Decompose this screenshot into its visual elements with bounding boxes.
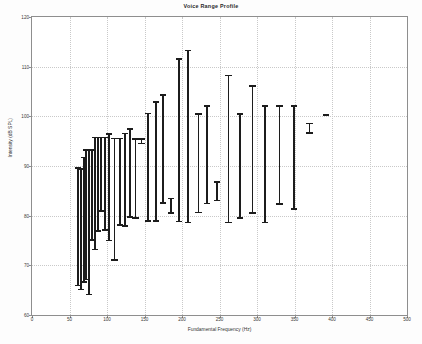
- range-bar-cap-min: [195, 212, 201, 214]
- range-bar: [94, 137, 96, 251]
- range-bar-cap-min: [185, 222, 191, 224]
- range-bar-cap-max: [291, 105, 297, 107]
- x-axis-tick-label: 300: [253, 317, 261, 322]
- range-bar: [91, 149, 93, 241]
- range-bar: [129, 128, 131, 217]
- range-bar-cap-min: [138, 143, 144, 145]
- range-bar-cap-max: [237, 113, 243, 115]
- range-bar-cap-min: [168, 212, 174, 214]
- range-bar-cap-min: [78, 289, 84, 291]
- range-bar: [206, 105, 208, 204]
- x-axis-tick-label: 400: [328, 317, 336, 322]
- screenshot-root: Voice Range Profile 60708090100110120050…: [0, 0, 422, 344]
- range-bar: [108, 133, 110, 241]
- y-axis-tick-label: 120: [21, 15, 29, 20]
- range-bar-cap-max: [160, 94, 166, 96]
- range-bar: [178, 58, 180, 222]
- range-bar: [100, 137, 102, 212]
- range-bar-cap-min: [204, 203, 210, 205]
- x-axis-tick-label: 500: [403, 317, 411, 322]
- range-bar: [80, 168, 82, 290]
- x-axis-tick-label: 250: [216, 317, 224, 322]
- x-axis-tick-label: 450: [366, 317, 374, 322]
- range-bar-cap-min: [225, 222, 231, 224]
- range-bar: [88, 149, 90, 295]
- y-axis-tick-label: 80: [24, 213, 29, 218]
- y-axis-tick: [29, 17, 32, 18]
- range-bar: [77, 167, 79, 286]
- range-bar-cap-max: [122, 133, 128, 135]
- range-bar: [124, 133, 126, 227]
- range-bar-cap-min: [92, 249, 98, 251]
- y-axis-tick: [29, 216, 32, 217]
- range-bar-cap-max: [117, 138, 123, 140]
- range-bar: [114, 138, 116, 261]
- range-bar-cap-max: [306, 123, 312, 125]
- x-axis-tick-label: 50: [67, 317, 72, 322]
- y-axis-tick: [29, 265, 32, 266]
- range-bar-cap-max: [153, 101, 159, 103]
- range-bar-cap-min: [122, 225, 128, 227]
- range-bar-cap-min: [323, 114, 329, 116]
- range-bar: [216, 181, 218, 201]
- matlab-figure: Voice Range Profile 60708090100110120050…: [0, 0, 422, 344]
- range-bar: [198, 113, 200, 213]
- range-bar-cap-min: [306, 132, 312, 134]
- x-axis-tick-label: 100: [103, 317, 111, 322]
- range-bar-cap-max: [225, 75, 231, 77]
- y-axis-tick-label: 90: [24, 164, 29, 169]
- range-bar-cap-max: [276, 105, 282, 107]
- range-bar-cap-max: [214, 181, 220, 183]
- range-bar-cap-max: [204, 105, 210, 107]
- x-axis-label: Fundamental Frequency (Hz): [31, 327, 408, 332]
- x-axis-tick-label: 150: [141, 317, 149, 322]
- range-bar: [279, 105, 281, 205]
- range-bar: [85, 149, 87, 280]
- y-axis-tick-label: 100: [21, 114, 29, 119]
- y-axis-label: Intensity (dB SPL): [8, 118, 13, 157]
- range-bar: [228, 75, 230, 224]
- range-bar: [187, 50, 189, 223]
- plot-axes: 6070809010011012005010015020025030035040…: [31, 16, 408, 316]
- range-bar-cap-min: [102, 229, 108, 231]
- range-bar-cap-min: [249, 212, 255, 214]
- data-layer: [32, 17, 407, 315]
- range-bar-cap-min: [132, 217, 138, 219]
- range-bar-cap-max: [249, 85, 255, 87]
- range-bar: [119, 138, 121, 226]
- range-bar-cap-min: [291, 208, 297, 210]
- y-axis-tick-label: 110: [22, 64, 29, 69]
- range-bar-cap-min: [176, 221, 182, 223]
- y-axis-tick: [29, 166, 32, 167]
- range-bar: [162, 94, 164, 203]
- y-axis-tick-label: 60: [24, 313, 29, 318]
- range-bar: [155, 101, 157, 222]
- range-bar-cap-max: [138, 138, 144, 140]
- range-bar-cap-min: [81, 281, 87, 283]
- range-bar: [97, 137, 99, 232]
- range-bar-cap-max: [127, 128, 133, 130]
- range-bar-cap-min: [95, 230, 101, 232]
- range-bar: [147, 113, 149, 222]
- range-bar-cap-max: [106, 133, 112, 135]
- range-bar: [239, 113, 241, 218]
- y-axis-tick: [29, 116, 32, 117]
- y-axis-tick: [29, 67, 32, 68]
- range-bar-cap-min: [106, 240, 112, 242]
- range-bar: [104, 137, 106, 231]
- range-bar-cap-max: [145, 113, 151, 115]
- range-bar-cap-max: [195, 113, 201, 115]
- page-title: Voice Range Profile: [0, 3, 422, 9]
- range-bar-cap-max: [176, 58, 182, 60]
- range-bar-cap-max: [185, 50, 191, 52]
- range-bar-cap-max: [168, 198, 174, 200]
- range-bar-cap-min: [153, 220, 159, 222]
- range-bar-cap-max: [262, 105, 268, 107]
- range-bar-cap-min: [214, 200, 220, 202]
- x-axis-tick-label: 0: [31, 317, 34, 322]
- range-bar: [252, 85, 254, 214]
- range-bar: [264, 105, 266, 223]
- range-bar-cap-min: [262, 222, 268, 224]
- range-bar: [293, 105, 295, 210]
- x-axis-tick-label: 200: [178, 317, 186, 322]
